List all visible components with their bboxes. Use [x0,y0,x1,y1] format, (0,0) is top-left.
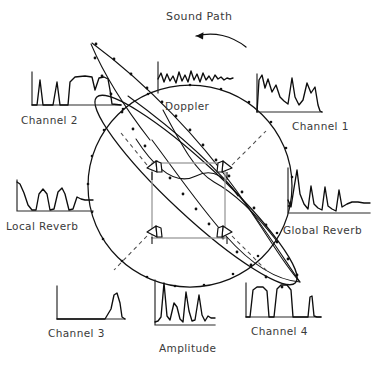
sound-path-diagram: Channel 2 Doppler Channel 1 Local Reverb… [0,0,378,368]
listening-area-square [152,163,225,238]
leader-line-channel-3 [114,236,147,270]
speaker-top-left[interactable] [147,161,162,180]
panel-channel-2: Channel 2 [21,72,121,126]
label-channel-4: Channel 4 [251,325,308,337]
panel-local-reverb: Local Reverb [6,180,93,232]
panel-channel-3: Channel 3 [48,286,125,339]
speaker-bottom-right[interactable] [217,226,232,244]
trajectory-ellipse [79,43,313,302]
label-channel-2: Channel 2 [21,114,78,126]
label-local-reverb: Local Reverb [6,220,78,232]
label-amplitude: Amplitude [159,342,216,354]
panel-global-reverb: Global Reverb [283,168,370,236]
panel-channel-1: Channel 1 [257,74,349,132]
label-channel-3: Channel 3 [48,327,105,339]
label-global-reverb: Global Reverb [283,224,362,236]
label-channel-1: Channel 1 [292,120,349,132]
panel-amplitude: Amplitude [155,280,216,354]
diagram-canvas: Channel 2 Doppler Channel 1 Local Reverb… [0,0,378,368]
panel-channel-4: Channel 4 [246,283,321,337]
centre-crossing-curves [136,110,276,240]
sound-path-circle [87,84,294,288]
label-doppler: Doppler [165,100,210,112]
sound-path-arrowhead [196,32,204,39]
speaker-bottom-left[interactable] [147,226,162,244]
leader-line-channel-1 [232,131,266,165]
label-sound-path: Sound Path [166,10,232,23]
sound-path-arrow [196,32,246,47]
